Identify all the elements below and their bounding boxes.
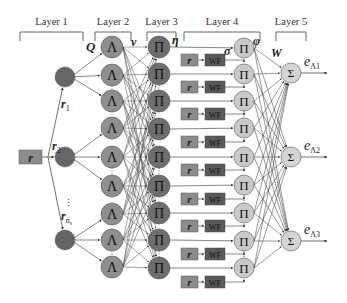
connection-line: [123, 213, 147, 214]
connection-line: [71, 240, 102, 261]
r-box-label: r: [187, 164, 192, 176]
connection-line: [71, 53, 102, 77]
layer1-node: [55, 67, 75, 87]
layer4-product-node-symbol: Π: [239, 94, 248, 109]
r-box-label: r: [187, 276, 192, 288]
connection-line: [225, 86, 244, 88]
layer3-product-node-symbol: Π: [154, 94, 164, 109]
connection-line: [225, 169, 244, 171]
r-box-label: r: [187, 220, 192, 232]
connection-line: [225, 253, 244, 255]
branch-label-rns: rns: [61, 209, 73, 226]
wf-box-label: WF: [209, 139, 222, 148]
connection-line: [71, 77, 101, 96]
connection-line: [123, 186, 151, 231]
layer-bracket: [20, 32, 83, 41]
r-box-label: r: [187, 108, 192, 120]
layer5-sum-node-symbol: Σ: [288, 67, 294, 79]
connection-line: [170, 240, 233, 241]
wf-box-label: WF: [209, 223, 222, 232]
r-box-label: r: [187, 81, 192, 93]
layer3-product-node-symbol: Π: [154, 206, 164, 221]
layer-label: Layer 2: [97, 16, 129, 27]
wf-box-label: WF: [209, 279, 222, 288]
layer3-product-node-symbol: Π: [154, 40, 164, 55]
layer2-membership-node-symbol: Λ: [107, 260, 118, 275]
layer2-membership-node-symbol: Λ: [107, 68, 118, 83]
weight-label-sigma: σ: [224, 44, 231, 58]
connection-line: [254, 83, 287, 213]
layer2-membership-node-symbol: Λ: [107, 150, 118, 165]
layer2-membership-node-symbol: Λ: [107, 121, 118, 136]
layer3-product-node-symbol: Π: [154, 150, 164, 165]
layer1-node: [55, 230, 75, 250]
layer-label: Layer 5: [275, 16, 307, 27]
layer2-membership-node-symbol: Λ: [107, 94, 118, 109]
labels: Layer 1Layer 2Layer 3Layer 4Layer 5r1r2⋮…: [35, 16, 320, 239]
layer3-product-node-symbol: Π: [154, 261, 164, 276]
branch-label-r2: r2: [52, 139, 61, 155]
wf-box-label: WF: [209, 167, 222, 176]
connection-line: [254, 73, 280, 74]
layer4-product-node-symbol: Π: [239, 178, 248, 193]
connection-line: [225, 280, 244, 283]
output-label-1: eΛ1: [304, 54, 320, 71]
weight-label-W: W: [271, 46, 283, 60]
layer-label: Layer 1: [35, 16, 67, 27]
layer2-membership-node-symbol: Λ: [107, 233, 118, 248]
connection-line: [225, 197, 244, 200]
layer4-product-node-symbol: Π: [239, 234, 248, 249]
weight-label-v: v: [131, 35, 137, 49]
connection-line: [71, 76, 100, 77]
r-box-label: r: [187, 54, 192, 66]
r-box-label: r: [187, 193, 192, 205]
weight-label-eta: η: [172, 33, 179, 47]
layer-label: Layer 4: [206, 16, 239, 27]
wf-box-label: WF: [209, 251, 222, 260]
connection-line: [254, 81, 284, 128]
layer2-membership-node-symbol: Λ: [107, 40, 118, 55]
input-r-label: r: [28, 151, 33, 165]
wf-box-label: WF: [209, 84, 222, 93]
wf-box-label: WF: [209, 196, 222, 205]
layer4-product-node-symbol: Π: [239, 150, 248, 165]
connection-line: [123, 140, 153, 214]
connection-line: [71, 157, 102, 180]
layer4-product-node-symbol: Π: [239, 261, 248, 276]
layer3-product-node-symbol: Π: [154, 233, 164, 248]
layer3-product-node-symbol: Π: [154, 179, 164, 194]
connection-line: [123, 196, 153, 267]
connection-line: [170, 128, 233, 129]
connection-line: [71, 134, 102, 157]
connection-line: [254, 79, 282, 101]
layer3-product-node-symbol: Π: [154, 122, 164, 137]
connection-line: [123, 267, 147, 268]
layer5-sum-node-symbol: Σ: [288, 151, 294, 163]
layer4-product-node-symbol: Π: [239, 67, 248, 82]
connection-line: [254, 213, 282, 235]
r-box-label: r: [187, 248, 192, 260]
weight-label-Q: Q: [86, 39, 96, 54]
layer2-membership-node-symbol: Λ: [107, 179, 118, 194]
connection-line: [71, 220, 101, 240]
wf-box-label: WF: [209, 57, 222, 66]
branch-ellipsis: ⋮: [64, 198, 73, 208]
connection-line: [254, 83, 287, 185]
connection-line: [225, 60, 244, 61]
weight-label-phi: φ: [253, 34, 260, 48]
connection-line: [225, 140, 244, 143]
layer4-product-node-symbol: Π: [239, 41, 248, 56]
layer3-product-node-symbol: Π: [154, 67, 164, 82]
layer4-product-node-symbol: Π: [239, 206, 248, 221]
connection-line: [225, 113, 244, 115]
fuzzy-neural-network-diagram: rWFrWFrWFrWFrWFrWFrWFrWFrWFrΛΛΛΛΛΛΛΛΛΠΠΠ…: [0, 0, 347, 303]
layer-bracket: [276, 32, 306, 41]
layer2-membership-node-symbol: Λ: [107, 207, 118, 222]
layer5-sum-node-symbol: Σ: [288, 235, 294, 247]
connection-line: [170, 185, 233, 186]
branch-label-r1: r1: [61, 97, 70, 113]
layer-label: Layer 3: [145, 16, 177, 27]
layer4-product-node-symbol: Π: [239, 121, 248, 136]
connection-line: [123, 74, 147, 75]
connection-line: [254, 246, 281, 268]
